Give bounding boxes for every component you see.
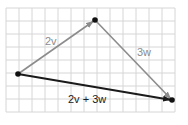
- label-3w: 3w: [137, 46, 151, 58]
- label-sum: 2v + 3w: [68, 93, 106, 105]
- point-apex: [92, 17, 98, 23]
- point-head: [169, 97, 175, 103]
- point-tail: [15, 71, 21, 77]
- vector-diagram: 2v 3w 2v + 3w: [0, 0, 188, 125]
- vector-2v: [18, 22, 93, 75]
- vector-3w: [95, 20, 171, 99]
- label-2v: 2v: [45, 35, 57, 47]
